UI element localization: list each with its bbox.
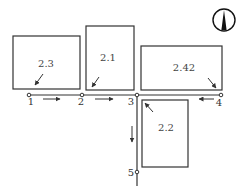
plot-2-3: 2.3 <box>13 36 80 89</box>
plot-2-1: 2.1 <box>86 26 134 90</box>
plot-label: 2.2 <box>158 122 174 133</box>
plot-2-2: 2.2 <box>142 100 188 167</box>
road-nodes: 12345 <box>27 93 223 178</box>
road-network <box>29 95 221 186</box>
node-marker <box>135 93 139 97</box>
node-marker <box>135 170 139 174</box>
node-label: 4 <box>216 97 222 108</box>
north-pointer <box>221 10 226 30</box>
node-label: 1 <box>28 96 34 107</box>
plot-outline <box>142 100 188 167</box>
node-label: 2 <box>78 96 84 107</box>
entrance-arrow-icon <box>208 78 216 88</box>
plot-2-42: 2.42 <box>141 46 222 90</box>
node-2: 2 <box>78 93 84 107</box>
entrance-arrow-icon <box>35 74 43 85</box>
node-label: 3 <box>128 96 134 107</box>
north-arrow-icon <box>213 9 235 31</box>
plot-label: 2.42 <box>173 62 195 73</box>
entrance-arrow-icon <box>145 103 153 112</box>
site-flow-diagram: 2.32.12.422.2 12345 <box>0 0 245 196</box>
node-1: 1 <box>27 93 34 107</box>
entrance-arrow-icon <box>92 77 99 87</box>
plot-label: 2.3 <box>38 58 54 69</box>
node-label: 5 <box>128 167 134 178</box>
plot-label: 2.1 <box>100 52 116 63</box>
plots-group: 2.32.12.422.2 <box>13 26 222 167</box>
